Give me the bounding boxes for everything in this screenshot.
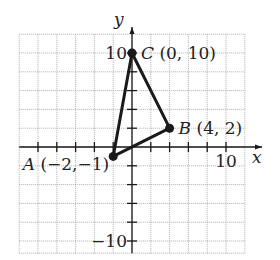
point-c	[128, 49, 137, 58]
point-label-a: A (−2,−1)	[21, 154, 109, 174]
triangle-abc	[109, 49, 174, 161]
x-axis-label: x	[252, 147, 262, 167]
point-label-b: B (4, 2)	[178, 118, 243, 138]
y-axis-arrow-icon	[130, 27, 135, 34]
triangle-edges	[113, 53, 169, 156]
point-b	[165, 124, 174, 133]
point-a	[109, 152, 118, 161]
y-axis-label: y	[113, 9, 124, 29]
point-label-c: C (0, 10)	[141, 43, 216, 63]
coordinate-plane: xy1010−10A (−2,−1)B (4, 2)C (0, 10)	[0, 0, 280, 260]
y-tick-label: −10	[91, 231, 127, 251]
y-tick-label: 10	[105, 43, 127, 63]
x-tick-label: 10	[215, 151, 237, 171]
